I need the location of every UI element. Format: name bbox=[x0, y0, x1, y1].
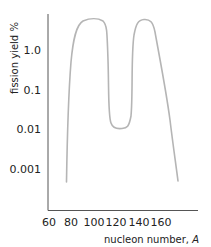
fission-yield-chart: fission yield % 1.0 0.1 0.01 0.001 60 80… bbox=[0, 0, 211, 247]
x-tick-label: 120 bbox=[106, 216, 127, 229]
x-tick-label: 80 bbox=[64, 216, 78, 229]
y-tick-label: 1.0 bbox=[24, 44, 42, 57]
fission-yield-curve bbox=[67, 19, 179, 182]
x-axis-label: nucleon number, A bbox=[104, 234, 199, 245]
x-tick-label: 140 bbox=[129, 216, 150, 229]
x-tick-label: 60 bbox=[42, 216, 56, 229]
x-tick-label: 160 bbox=[151, 216, 172, 229]
y-tick-label: 0.001 bbox=[10, 163, 42, 176]
x-tick-label: 100 bbox=[84, 216, 105, 229]
y-tick-label: 0.01 bbox=[17, 123, 42, 136]
y-axis-label: fission yield % bbox=[9, 22, 20, 94]
y-tick-label: 0.1 bbox=[24, 84, 42, 97]
